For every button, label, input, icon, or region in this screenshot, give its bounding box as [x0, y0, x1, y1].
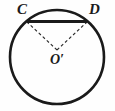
center-label-o-prime: O′	[50, 53, 64, 67]
point-label-d: D	[89, 2, 100, 17]
radius-to-d-dashed	[57, 23, 87, 51]
geometry-figure: C D O′	[0, 0, 115, 111]
radius-to-c-dashed	[28, 23, 58, 51]
point-label-c: C	[17, 2, 27, 17]
